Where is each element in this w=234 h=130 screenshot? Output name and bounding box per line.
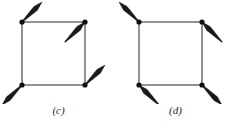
displacement-arrow-top-right — [202, 22, 222, 42]
panel-d-caption: (d) — [117, 104, 234, 116]
lattice-atom-bottom-left — [136, 82, 141, 87]
displacement-arrow-top-left — [22, 2, 42, 22]
panel-c: (c) — [0, 0, 117, 130]
panel-d-diagram — [117, 0, 234, 104]
figure-root: (c) (d) — [0, 0, 234, 130]
lattice-atom-top-right — [82, 19, 87, 24]
lattice-atom-bottom-right — [82, 82, 87, 87]
lattice-atom-top-right — [199, 19, 204, 24]
displacement-arrow-top-left — [119, 2, 139, 22]
lattice-atom-top-left — [136, 19, 141, 24]
lattice-atom-bottom-left — [19, 82, 24, 87]
lattice-atom-top-left — [19, 19, 24, 24]
displacement-arrow-top-right — [65, 22, 85, 42]
displacement-arrow-bottom-left — [139, 85, 159, 104]
displacement-arrow-bottom-right — [202, 85, 222, 104]
panel-d: (d) — [117, 0, 234, 130]
lattice-atom-bottom-right — [199, 82, 204, 87]
panel-c-diagram — [0, 0, 117, 104]
displacement-arrow-bottom-right — [85, 65, 105, 85]
lattice-square — [139, 22, 202, 85]
displacement-arrow-bottom-left — [2, 85, 22, 104]
panel-c-caption: (c) — [0, 104, 117, 116]
